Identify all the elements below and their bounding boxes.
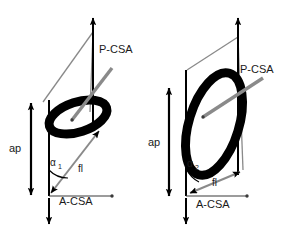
left-fascicle-arrow bbox=[51, 131, 99, 193]
left-upper-slant-line bbox=[43, 32, 93, 102]
right-acsa-label: A-CSA bbox=[196, 198, 230, 210]
panel-left: P-CSA A-CSA ap fl α 1 bbox=[9, 18, 133, 224]
left-ap-label: ap bbox=[9, 142, 21, 154]
left-pcsa-ellipse bbox=[45, 93, 111, 140]
right-pcsa-label: P-CSA bbox=[240, 63, 274, 75]
right-ap-label: ap bbox=[148, 136, 160, 148]
muscle-architecture-figure: P-CSA A-CSA ap fl α 1 bbox=[0, 0, 283, 230]
left-alpha-subscript: 1 bbox=[58, 163, 62, 170]
left-pcsa-label: P-CSA bbox=[99, 43, 133, 55]
figure-canvas: P-CSA A-CSA ap fl α 1 bbox=[0, 0, 283, 230]
left-fl-label: fl bbox=[78, 163, 83, 174]
right-alpha-subscript: 2 bbox=[195, 164, 199, 171]
left-acsa-label: A-CSA bbox=[59, 195, 93, 207]
panel-right: P-CSA A-CSA ap fl α 2 bbox=[148, 18, 274, 224]
right-upper-slant-line bbox=[187, 37, 238, 70]
left-alpha-label: α bbox=[50, 157, 56, 168]
right-alpha-label: α bbox=[187, 158, 193, 169]
right-fl-label: fl bbox=[212, 177, 217, 188]
